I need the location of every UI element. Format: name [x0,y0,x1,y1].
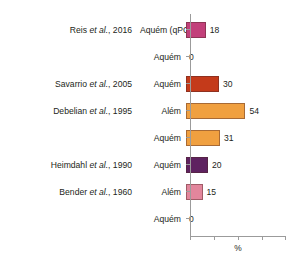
y-axis-tick [186,110,190,111]
study-label: Debelian et al., 1995 [0,106,140,116]
bar-value-label: 20 [212,160,222,170]
category-label: Aquém [140,79,186,89]
study-label: Savarrio et al., 2005 [0,79,140,89]
study-label: Reis et al., 2016 [0,25,140,35]
category-label: Aquém [140,160,186,170]
study-label: Heimdahl et al., 1990 [0,160,140,170]
y-axis-tick [186,83,190,84]
bar-area: 15 [186,178,307,205]
x-axis-tick [238,236,239,240]
y-axis-tick [186,29,190,30]
category-label: Aquém [140,133,186,143]
bar-value-label: 18 [210,25,220,35]
chart-row: Reis et al., 2016Aquém (qPCR)18 [0,16,307,43]
chart-row: Debelian et al., 1995Além54 [0,97,307,124]
bar-value-label: 30 [223,79,233,89]
bar-area: 54 [186,97,307,124]
x-axis-tick [285,236,286,240]
bar-area: 18 [186,16,307,43]
bar-chart: Reis et al., 2016Aquém (qPCR)18Aquém0Sav… [0,0,307,259]
y-axis-line [190,14,191,236]
bar-area: 20 [186,151,307,178]
category-label: Aquém [140,214,186,224]
chart-row: Aquém31 [0,124,307,151]
y-axis-tick [186,218,190,219]
category-label: Aquém [140,52,186,62]
x-axis-tick [190,236,191,240]
bar[interactable] [186,130,220,146]
y-axis-tick [186,191,190,192]
chart-row: Aquém0 [0,205,307,232]
category-label: Além [140,187,186,197]
chart-row: Savarrio et al., 2005Aquém30 [0,70,307,97]
bar-area: 0 [186,205,307,232]
chart-row: Heimdahl et al., 1990Aquém20 [0,151,307,178]
bar-value-label: 31 [224,133,234,143]
category-label: Além [140,106,186,116]
x-axis-tick [262,236,263,240]
chart-row: Aquém0 [0,43,307,70]
y-axis-tick [186,164,190,165]
y-axis-tick [186,56,190,57]
bar-value-label: 15 [207,187,217,197]
bar-area: 31 [186,124,307,151]
study-label: Bender et al., 1960 [0,187,140,197]
bar-area: 30 [186,70,307,97]
bar-area: 0 [186,43,307,70]
chart-row: Bender et al., 1960Além15 [0,178,307,205]
x-axis-title: % [190,243,286,253]
category-label: Aquém (qPCR) [140,25,186,35]
bar[interactable] [186,103,245,119]
bar-value-label: 54 [249,106,259,116]
x-axis-tick [214,236,215,240]
y-axis-tick [186,137,190,138]
